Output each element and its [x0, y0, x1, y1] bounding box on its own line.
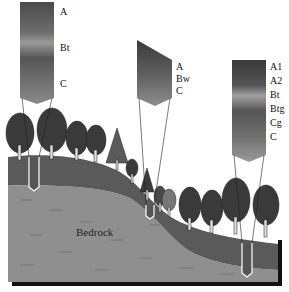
horizon-label-lowland-a1: A1 — [270, 61, 282, 73]
deciduous-tree-icon — [66, 121, 88, 160]
soil-pit-right — [242, 243, 252, 277]
horizon-label-upland-bt: Bt — [60, 42, 69, 54]
horizon-label-lowland-bt: Bt — [270, 89, 279, 101]
deciduous-tree-icon — [201, 190, 223, 233]
soil-pit-left — [29, 157, 39, 191]
conifer-tree-icon — [106, 128, 128, 170]
horizon-label-lowland-a2: A2 — [270, 75, 282, 87]
horizon-label-slope-bw: Bw — [176, 73, 190, 85]
horizon-label-lowland-cg: Cg — [270, 117, 282, 129]
profile-column-middle — [137, 40, 172, 205]
deciduous-tree-icon — [222, 178, 250, 234]
deciduous-tree-icon — [37, 108, 67, 159]
horizon-label-slope-c: C — [176, 85, 183, 97]
horizon-label-slope-a: A — [176, 61, 183, 73]
horizon-label-lowland-c: C — [270, 131, 277, 143]
horizon-label-upland-c: C — [60, 78, 67, 90]
bedrock-label: Bedrock — [76, 226, 113, 238]
deciduous-tree-icon — [253, 185, 279, 237]
deciduous-tree-icon — [6, 113, 34, 160]
soil-pit-middle — [146, 205, 154, 219]
deciduous-tree-icon — [86, 125, 106, 162]
soil-landscape-diagram — [0, 0, 289, 292]
horizon-label-upland-a: A — [60, 6, 67, 18]
horizon-label-lowland-btg: Btg — [270, 103, 284, 115]
